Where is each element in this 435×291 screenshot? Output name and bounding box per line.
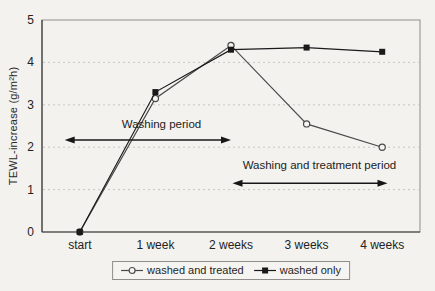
data-point-square [152,89,158,95]
arrowhead-right [221,136,231,143]
y-tick-label: 1 [27,183,34,197]
arrowhead-right [377,180,387,187]
x-tick-label: 3 weeks [285,238,329,252]
data-point-square [379,49,385,55]
data-point-square [304,45,310,51]
annotation-label: Washing period [122,118,201,130]
data-point-circle [304,121,310,127]
legend-item-washed-and-treated: washed and treated [121,264,244,276]
legend-label-washed-only: washed only [280,264,341,276]
tewl-line-chart-figure: TEWL-increase (g/m²h) Washing periodWash… [0,0,435,291]
x-tick-label: start [68,238,92,252]
data-point-square [228,47,234,53]
y-tick-label: 0 [27,225,34,239]
plot-area: Washing periodWashing and treatment peri… [0,0,435,291]
y-tick-label: 2 [27,140,34,154]
y-tick-label: 5 [27,13,34,27]
open-circle-marker-icon [121,266,143,275]
arrowhead-left [233,180,243,187]
arrowhead-left [65,136,75,143]
series-line-washed-and-treated [80,45,382,232]
data-point-square [77,229,83,235]
legend-box: washed and treated washed only [112,261,350,280]
filled-square-marker-icon [254,266,276,275]
y-tick-label: 3 [27,98,34,112]
y-tick-label: 4 [27,55,34,69]
x-tick-label: 2 weeks [209,238,253,252]
annotation-label: Washing and treatment period [243,159,397,171]
legend-label-washed-and-treated: washed and treated [147,264,244,276]
x-tick-label: 4 weeks [360,238,404,252]
legend-item-washed-only: washed only [254,264,341,276]
data-point-circle [379,144,385,150]
x-tick-label: 1 week [136,238,175,252]
